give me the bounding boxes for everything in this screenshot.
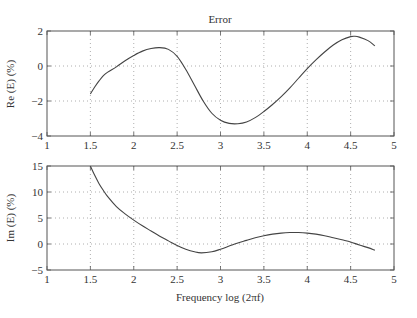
x-tick-label: 4.5 bbox=[344, 273, 358, 285]
x-axis-label: Frequency log (2πf) bbox=[176, 291, 264, 304]
x-tick-label: 3.5 bbox=[257, 139, 271, 151]
x-tick-label: 3 bbox=[218, 139, 224, 151]
x-tick-label: 2 bbox=[131, 273, 137, 285]
chart-title: Error bbox=[208, 13, 232, 25]
y-tick-label: 15 bbox=[32, 160, 44, 172]
y-tick-label: 5 bbox=[38, 212, 44, 224]
x-tick-label: 4 bbox=[305, 273, 311, 285]
x-tick-label: 1.5 bbox=[84, 273, 98, 285]
y-tick-label: −4 bbox=[31, 130, 43, 142]
re-error-curve bbox=[90, 36, 375, 124]
x-tick-label: 2 bbox=[131, 139, 137, 151]
x-tick-label: 1 bbox=[44, 273, 50, 285]
x-tick-label: 1 bbox=[44, 139, 50, 151]
x-tick-label: 5 bbox=[391, 273, 397, 285]
x-tick-label: 5 bbox=[391, 139, 397, 151]
y-tick-label: 10 bbox=[32, 186, 44, 198]
x-tick-label: 2.5 bbox=[170, 273, 184, 285]
x-tick-label: 3.5 bbox=[257, 273, 271, 285]
im-error-curve bbox=[90, 166, 375, 253]
x-tick-label: 2.5 bbox=[170, 139, 184, 151]
y-tick-label: 2 bbox=[38, 25, 44, 37]
re-ylabel: Re (E) (%) bbox=[4, 60, 17, 109]
im-ylabel: Im (E) (%) bbox=[4, 194, 17, 243]
error-figure: 11.522.533.544.55−4−202 11.522.533.544.5… bbox=[0, 0, 417, 318]
y-tick-label: 0 bbox=[38, 60, 44, 72]
y-tick-label: −2 bbox=[31, 95, 43, 107]
y-tick-label: 0 bbox=[38, 238, 44, 250]
re-error-axes: 11.522.533.544.55−4−202 bbox=[31, 25, 397, 151]
x-tick-label: 4.5 bbox=[344, 139, 358, 151]
x-tick-label: 4 bbox=[305, 139, 311, 151]
im-error-axes: 11.522.533.544.55−5051015 bbox=[31, 160, 397, 285]
x-tick-label: 3 bbox=[218, 273, 224, 285]
x-tick-label: 1.5 bbox=[84, 139, 98, 151]
y-tick-label: −5 bbox=[31, 264, 43, 276]
